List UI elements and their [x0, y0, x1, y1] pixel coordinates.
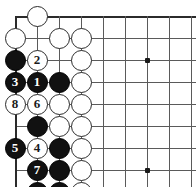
- stone-black[interactable]: [27, 116, 48, 137]
- stone-white[interactable]: [71, 160, 92, 181]
- move-stone-3[interactable]: 3: [5, 72, 26, 93]
- grid-line-vertical: [191, 16, 192, 187]
- star-point: [145, 168, 150, 173]
- stone-black[interactable]: [49, 160, 70, 181]
- move-stone-6[interactable]: 6: [27, 94, 48, 115]
- stone-white[interactable]: [71, 72, 92, 93]
- stone-white[interactable]: [27, 6, 48, 27]
- move-number-label: 8: [12, 97, 19, 110]
- stone-white[interactable]: [71, 28, 92, 49]
- move-number-label: 4: [34, 141, 41, 154]
- grid-line-vertical: [147, 16, 148, 187]
- stone-white[interactable]: [71, 50, 92, 71]
- move-stone-2[interactable]: 2: [27, 50, 48, 71]
- move-number-label: 1: [34, 75, 41, 88]
- stone-white[interactable]: [49, 28, 70, 49]
- move-stone-5[interactable]: 5: [5, 138, 26, 159]
- move-number-label: 7: [34, 163, 41, 176]
- move-number-label: 5: [12, 141, 19, 154]
- stone-black[interactable]: [49, 182, 70, 188]
- grid-line-vertical: [103, 16, 104, 187]
- stone-white[interactable]: [5, 28, 26, 49]
- move-stone-8[interactable]: 8: [5, 94, 26, 115]
- move-number-label: 3: [12, 75, 19, 88]
- stone-white[interactable]: [71, 182, 92, 188]
- stone-white[interactable]: [71, 116, 92, 137]
- stone-black[interactable]: [49, 138, 70, 159]
- move-stone-4[interactable]: 4: [27, 138, 48, 159]
- move-number-label: 6: [34, 97, 41, 110]
- grid-line-vertical: [125, 16, 126, 187]
- stone-white[interactable]: [49, 116, 70, 137]
- stone-white[interactable]: [71, 138, 92, 159]
- grid-line-vertical: [169, 16, 170, 187]
- move-number-label: 2: [34, 53, 41, 66]
- stone-black[interactable]: [27, 182, 48, 188]
- stone-black[interactable]: [5, 50, 26, 71]
- move-stone-7[interactable]: 7: [27, 160, 48, 181]
- star-point: [145, 58, 150, 63]
- stone-white[interactable]: [49, 94, 70, 115]
- go-board-diagram: 231865479: [0, 0, 196, 187]
- stone-black[interactable]: [49, 72, 70, 93]
- stone-white[interactable]: [71, 94, 92, 115]
- move-stone-1[interactable]: 1: [27, 72, 48, 93]
